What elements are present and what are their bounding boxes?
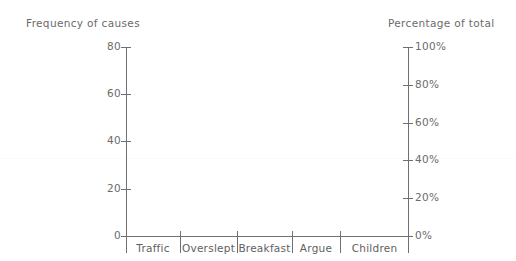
y-axis-left-label-20: 20 [61, 182, 121, 194]
y-axis-left-label-80: 80 [61, 40, 121, 52]
y-axis-right-label-40: 40% [415, 153, 475, 165]
category-label-children: Children [352, 242, 398, 254]
category-cell-children: Children [340, 237, 409, 259]
y-axis-left-label-60: 60 [61, 87, 121, 99]
y-axis-right-line [408, 47, 409, 237]
pareto-chart: Frequency of causes Percentage of total … [0, 0, 516, 261]
left-axis-title: Frequency of causes [26, 17, 140, 29]
y-axis-left-label-0: 0 [61, 229, 121, 241]
plot-area [127, 47, 408, 236]
y-axis-right-label-20: 20% [415, 191, 475, 203]
y-axis-right-label-100: 100% [415, 40, 475, 52]
category-cell-argue: Argue [292, 237, 340, 259]
category-cell-traffic: Traffic [126, 237, 180, 259]
right-axis-title: Percentage of total [388, 17, 495, 29]
category-label-argue: Argue [300, 242, 332, 254]
y-axis-right-label-80: 80% [415, 78, 475, 90]
category-cell-overslept: Overslept [180, 237, 237, 259]
category-label-overslept: Overslept [182, 242, 235, 254]
category-divider-end [408, 231, 409, 253]
category-cell-breakfast: Breakfast [237, 237, 292, 259]
category-label-breakfast: Breakfast [238, 242, 290, 254]
category-label-traffic: Traffic [136, 242, 169, 254]
y-axis-right-label-0: 0% [415, 229, 475, 241]
y-axis-right-label-60: 60% [415, 116, 475, 128]
category-axis: Traffic Overslept Breakfast Argue Childr… [126, 237, 409, 259]
y-axis-left-label-40: 40 [61, 134, 121, 146]
